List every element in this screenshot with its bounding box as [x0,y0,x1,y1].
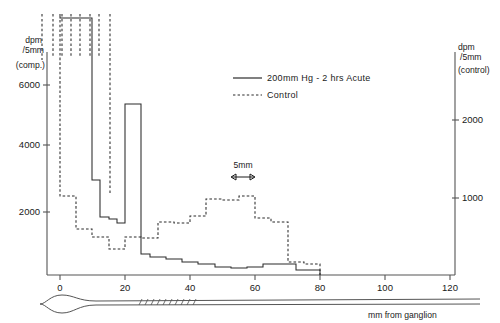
y-axis-right: 2000 1000 dpm /5mm (control) [452,42,490,275]
x-axis-title: mm from ganglion [368,310,437,320]
x-tick-label: 80 [315,282,326,293]
y-axis-right-title-line2: /5mm [460,52,481,62]
legend-label-control: Control [267,90,298,100]
y-axis-left-title-line1: dpm [25,35,42,45]
y-right-tick-label: 2000 [462,114,483,125]
y-axis-left-title-line2: /5mm [23,45,44,55]
y-left-tick-label: 6000 [19,79,40,90]
scale-bar-annotation: 5mm [231,160,255,180]
x-tick-label: 0 [57,282,62,293]
chart-canvas: 6000 4000 2000 dpm /5mm (comp.) 2000 100… [0,0,500,323]
series-control-line [60,20,320,275]
nerve-schematic-diagram: mm from ganglion [40,295,480,320]
y-axis-right-title-line3: (control) [458,65,490,75]
x-tick-label: 100 [377,282,393,293]
y-axis-right-title-line1: dpm [458,42,475,52]
y-axis-left-title-line3: (comp.) [16,60,45,70]
figure-root: 6000 4000 2000 dpm /5mm (comp.) 2000 100… [0,0,500,323]
x-tick-label: 120 [442,282,458,293]
x-tick-label: 40 [185,282,196,293]
legend-label-acute: 200mm Hg - 2 hrs Acute [267,73,371,83]
offscale-spikes-group [42,14,110,195]
x-axis: 0 20 40 60 80 100 120 [47,275,458,293]
x-tick-label: 60 [250,282,261,293]
y-axis-left: 6000 4000 2000 dpm /5mm (comp.) [16,35,50,275]
y-right-tick-label: 1000 [462,192,483,203]
nerve-upper-edge [40,295,480,304]
compressed-segment-hatching [139,299,196,305]
x-tick-label: 20 [120,282,131,293]
series-acute-line [60,14,320,275]
y-left-tick-label: 4000 [19,139,40,150]
scale-bar-label: 5mm [233,160,252,170]
y-left-tick-label: 2000 [19,206,40,217]
chart-legend: 200mm Hg - 2 hrs Acute Control [233,73,371,100]
